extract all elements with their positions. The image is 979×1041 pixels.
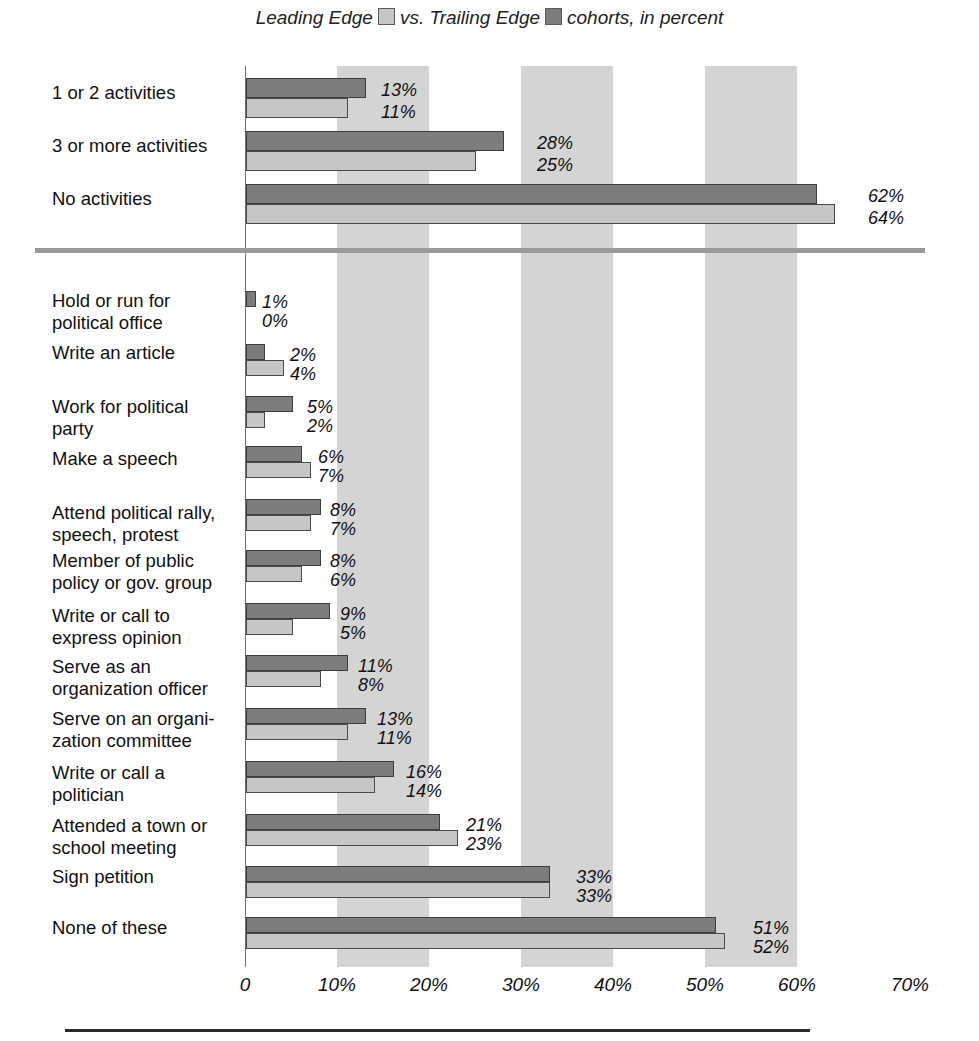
x-tick-30: 30% — [491, 974, 551, 996]
bar-leading — [246, 462, 311, 478]
category-label-line1: Sign petition — [52, 866, 242, 888]
category-label-line2: zation committee — [52, 730, 257, 752]
bar-trailing — [246, 655, 348, 671]
bar-trailing — [246, 603, 330, 619]
value-label-trailing: 5% — [307, 397, 333, 418]
category-label-line1: Write or call a — [52, 762, 242, 784]
value-label-leading: 33% — [576, 886, 612, 907]
category-label: Hold or run for political office — [52, 290, 242, 334]
bar-trailing — [246, 184, 817, 204]
value-label-trailing: 13% — [377, 709, 413, 730]
value-label-leading: 4% — [290, 364, 316, 385]
category-label-line2: policy or gov. group — [52, 572, 257, 594]
value-label-leading: 23% — [466, 834, 502, 855]
bar-trailing — [246, 344, 265, 360]
category-label-line1: 3 or more activities — [52, 135, 257, 157]
value-label-leading: 6% — [330, 570, 356, 591]
bar-trailing — [246, 396, 293, 412]
bar-leading — [246, 619, 293, 635]
value-label-trailing: 51% — [753, 918, 789, 939]
category-label: Member of public policy or gov. group — [52, 550, 257, 594]
x-tick-60: 60% — [767, 974, 827, 996]
bar-leading — [246, 515, 311, 531]
category-label: Make a speech — [52, 448, 242, 470]
bar-leading — [246, 412, 265, 428]
category-label: 3 or more activities — [52, 135, 257, 157]
category-label: Write or call to express opinion — [52, 605, 242, 649]
value-label-trailing: 33% — [576, 867, 612, 888]
chart-page: Leading Edgevs. Trailing Edgecohorts, in… — [0, 0, 979, 1041]
category-label-line2: express opinion — [52, 627, 242, 649]
plot-area: 1 or 2 activities 13% 11% 3 or more acti… — [0, 0, 979, 1041]
x-tick-50: 50% — [675, 974, 735, 996]
value-label-leading: 8% — [358, 675, 384, 696]
value-label-trailing: 11% — [358, 656, 393, 677]
category-label-line1: 1 or 2 activities — [52, 82, 242, 104]
value-label-leading: 0% — [262, 311, 288, 332]
value-label-leading: 52% — [753, 937, 789, 958]
bar-leading — [246, 566, 302, 582]
group-separator-rule — [35, 248, 925, 253]
x-tick-10: 10% — [307, 974, 367, 996]
bar-trailing — [246, 446, 302, 462]
bar-trailing — [246, 708, 366, 724]
bar-trailing — [246, 78, 366, 98]
value-label-leading: 7% — [330, 519, 356, 540]
category-label-line1: Write an article — [52, 342, 242, 364]
value-label-leading: 5% — [340, 623, 366, 644]
category-label-line1: Make a speech — [52, 448, 242, 470]
category-label-line1: Serve as an — [52, 656, 257, 678]
value-label-trailing: 1% — [262, 292, 288, 313]
category-label-line1: None of these — [52, 917, 242, 939]
category-label: Serve as an organization officer — [52, 656, 257, 700]
category-label: Write an article — [52, 342, 242, 364]
category-label-line1: Hold or run for — [52, 290, 242, 312]
category-label-line2: organization officer — [52, 678, 257, 700]
category-label: Attend political rally, speech, protest — [52, 502, 257, 546]
category-label: Attended a town or school meeting — [52, 815, 257, 859]
bottom-rule — [65, 1029, 810, 1032]
value-label-leading: 11% — [377, 728, 412, 749]
category-label-line2: politician — [52, 784, 242, 806]
category-label-line2: speech, protest — [52, 524, 257, 546]
bar-leading — [246, 724, 348, 740]
bar-leading — [246, 882, 550, 898]
bar-leading — [246, 98, 348, 118]
x-tick-70: 70% — [880, 974, 940, 996]
category-label-line1: Write or call to — [52, 605, 242, 627]
bar-leading — [246, 360, 284, 376]
value-label-trailing: 21% — [466, 815, 502, 836]
value-label-leading: 64% — [868, 208, 904, 229]
category-label: No activities — [52, 188, 242, 210]
bar-leading — [246, 933, 725, 949]
value-label-leading: 11% — [381, 102, 416, 123]
category-label: Work for political party — [52, 396, 242, 440]
category-label: None of these — [52, 917, 242, 939]
category-label: Sign petition — [52, 866, 242, 888]
x-tick-20: 20% — [399, 974, 459, 996]
bar-leading — [246, 671, 321, 687]
value-label-trailing: 62% — [868, 186, 904, 207]
x-tick-40: 40% — [583, 974, 643, 996]
category-label: Write or call a politician — [52, 762, 242, 806]
bar-trailing — [246, 291, 256, 307]
value-label-leading: 25% — [537, 155, 573, 176]
category-label-line1: Attend political rally, — [52, 502, 257, 524]
value-label-trailing: 9% — [340, 604, 366, 625]
category-label: Serve on an organi- zation committee — [52, 708, 257, 752]
value-label-trailing: 28% — [537, 133, 573, 154]
value-label-leading: 14% — [406, 781, 442, 802]
x-tick-0: 0 — [215, 974, 275, 996]
value-label-trailing: 2% — [290, 345, 316, 366]
value-label-trailing: 8% — [330, 551, 356, 572]
bar-trailing — [246, 917, 716, 933]
value-label-leading: 2% — [307, 416, 333, 437]
bar-leading — [246, 204, 835, 224]
category-label-line1: Work for political — [52, 396, 242, 418]
category-label-line2: party — [52, 418, 242, 440]
value-label-trailing: 16% — [406, 762, 442, 783]
bar-leading — [246, 830, 458, 846]
category-label-line1: Member of public — [52, 550, 257, 572]
category-label-line1: Serve on an organi- — [52, 708, 257, 730]
bar-trailing — [246, 761, 394, 777]
